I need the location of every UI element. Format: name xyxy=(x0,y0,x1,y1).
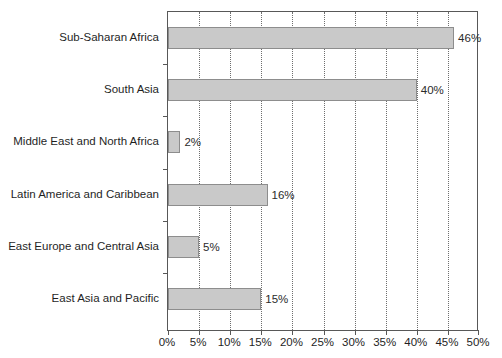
x-axis-label-5: 5% xyxy=(190,336,207,348)
plot-area: 46% 40% 2% 16% 5% 15% xyxy=(167,11,478,331)
x-axis-tick xyxy=(292,330,293,335)
table-row: 15% xyxy=(168,273,477,325)
x-axis-label-10: 10% xyxy=(218,336,241,348)
category-label-latin-america-and-caribbean: Latin America and Caribbean xyxy=(0,183,159,205)
category-label-east-europe-and-central-asia: East Europe and Central Asia xyxy=(0,235,159,257)
x-axis-tick xyxy=(478,330,479,335)
x-axis-label-30: 30% xyxy=(342,336,365,348)
table-row: 46% xyxy=(168,12,477,64)
x-axis-tick xyxy=(261,330,262,335)
category-axis-labels: Sub-Saharan Africa South Asia Middle Eas… xyxy=(0,11,167,331)
x-axis-label-45: 45% xyxy=(435,336,458,348)
category-label-south-asia: South Asia xyxy=(0,78,159,100)
bar-value-sub-saharan-africa: 46% xyxy=(454,27,481,49)
x-axis-tick xyxy=(199,330,200,335)
clipped-caption-remnant xyxy=(0,353,502,358)
bar-middle-east-and-north-africa xyxy=(168,131,180,153)
table-row: 16% xyxy=(168,169,477,221)
x-axis-tick xyxy=(448,330,449,335)
category-label-middle-east-and-north-africa: Middle East and North Africa xyxy=(0,130,159,152)
x-axis-tick xyxy=(386,330,387,335)
x-axis-label-25: 25% xyxy=(311,336,334,348)
x-axis-tick xyxy=(324,330,325,335)
bar-east-europe-and-central-asia xyxy=(168,236,199,258)
table-row: 40% xyxy=(168,64,477,116)
x-axis-tick xyxy=(355,330,356,335)
bar-value-middle-east-and-north-africa: 2% xyxy=(180,131,201,153)
table-row: 2% xyxy=(168,116,477,168)
x-axis-tick xyxy=(417,330,418,335)
bar-east-asia-and-pacific xyxy=(168,288,261,310)
x-axis-label-15: 15% xyxy=(249,336,272,348)
x-axis-label-40: 40% xyxy=(404,336,427,348)
bar-latin-america-and-caribbean xyxy=(168,184,268,206)
category-label-east-asia-and-pacific: East Asia and Pacific xyxy=(0,287,159,309)
bar-value-latin-america-and-caribbean: 16% xyxy=(268,184,295,206)
category-label-sub-saharan-africa: Sub-Saharan Africa xyxy=(0,26,159,48)
x-axis-tick xyxy=(230,330,231,335)
bar-value-south-asia: 40% xyxy=(417,79,444,101)
x-axis-label-0: 0% xyxy=(159,336,176,348)
x-axis-label-20: 20% xyxy=(280,336,303,348)
bar-chart: Sub-Saharan Africa South Asia Middle Eas… xyxy=(0,0,502,358)
x-axis-label-50: 50% xyxy=(466,336,489,348)
x-axis-tick xyxy=(168,330,169,335)
bar-value-east-asia-and-pacific: 15% xyxy=(261,288,288,310)
bar-south-asia xyxy=(168,79,417,101)
table-row: 5% xyxy=(168,221,477,273)
bar-value-east-europe-and-central-asia: 5% xyxy=(199,236,220,258)
bar-sub-saharan-africa xyxy=(168,27,454,49)
x-axis-label-35: 35% xyxy=(373,336,396,348)
